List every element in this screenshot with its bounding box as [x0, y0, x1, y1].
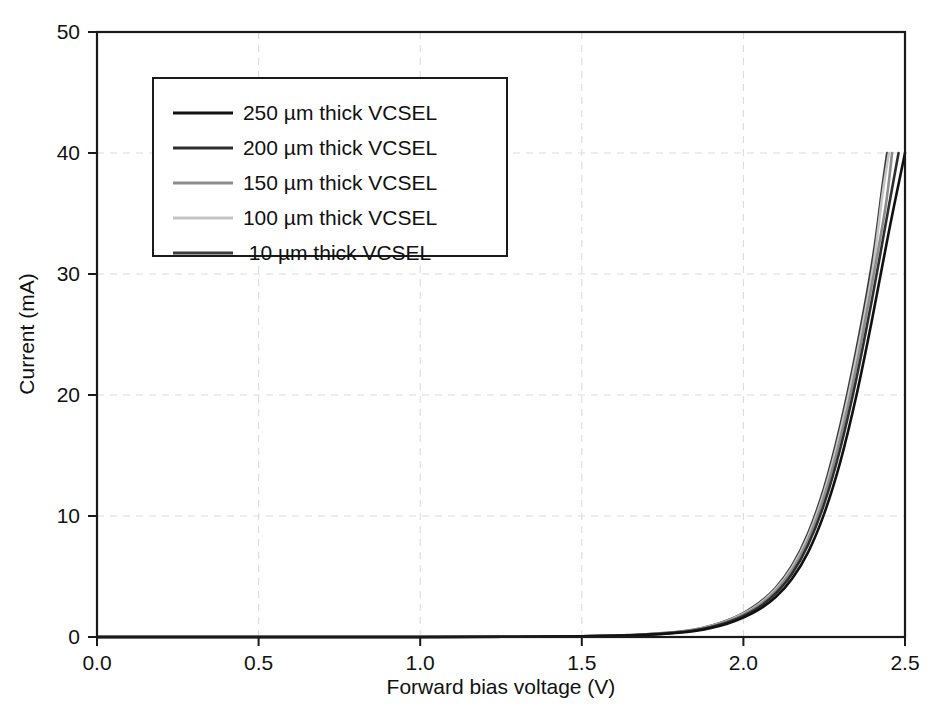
chart-svg: 0.00.51.01.52.02.5 01020304050 Forward b… — [0, 0, 945, 726]
y-tick-label: 0 — [68, 625, 80, 648]
x-tick-label: 0.0 — [82, 651, 111, 674]
x-axis-title: Forward bias voltage (V) — [387, 675, 616, 698]
legend-label-2: 150 µm thick VCSEL — [243, 171, 437, 194]
legend-label-1: 200 µm thick VCSEL — [243, 136, 437, 159]
x-tick-label: 1.5 — [567, 651, 596, 674]
y-tick-label: 20 — [57, 383, 80, 406]
y-axis-title: Current (mA) — [15, 273, 38, 394]
legend-label-0: 250 µm thick VCSEL — [243, 101, 437, 124]
y-tick-label: 50 — [57, 20, 80, 43]
x-tick-label: 1.0 — [406, 651, 435, 674]
y-tick-label: 10 — [57, 504, 80, 527]
x-tick-label: 2.0 — [729, 651, 758, 674]
legend-label-4: 10 µm thick VCSEL — [249, 241, 432, 264]
x-tick-label: 2.5 — [890, 651, 919, 674]
legend-label-3: 100 µm thick VCSEL — [243, 206, 437, 229]
y-tick-label: 40 — [57, 141, 80, 164]
x-tick-label: 0.5 — [244, 651, 273, 674]
y-tick-label: 30 — [57, 262, 80, 285]
chart-figure: 0.00.51.01.52.02.5 01020304050 Forward b… — [0, 0, 945, 726]
